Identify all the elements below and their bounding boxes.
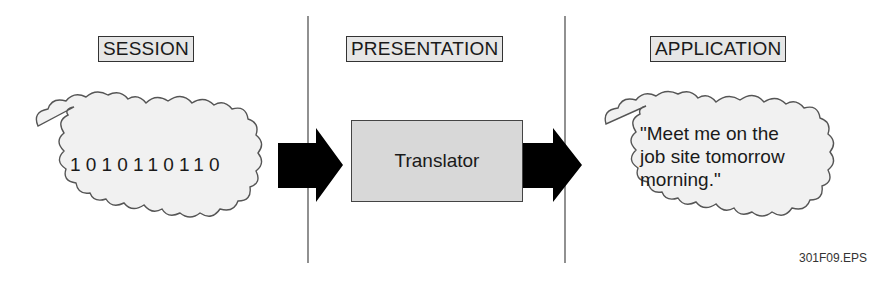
presentation-layer-title: PRESENTATION xyxy=(346,36,503,62)
application-message: "Meet me on the job site tomorrow mornin… xyxy=(640,122,785,191)
session-layer-title: SESSION xyxy=(98,36,194,62)
translator-label: Translator xyxy=(395,150,480,172)
application-layer-title: APPLICATION xyxy=(650,36,786,62)
arrow-session-to-presentation-icon xyxy=(278,128,343,202)
application-message-line-1: "Meet me on the xyxy=(640,122,785,145)
application-message-line-2: job site tomorrow xyxy=(640,145,785,168)
translator-box: Translator xyxy=(351,120,523,202)
osi-layers-diagram: SESSION PRESENTATION APPLICATION 1010110… xyxy=(0,0,895,286)
figure-file-caption: 301F09.EPS xyxy=(799,251,867,265)
arrow-presentation-to-application-icon xyxy=(520,128,582,202)
session-binary-data: 1010110110 xyxy=(70,154,225,176)
application-message-line-3: morning." xyxy=(640,168,785,191)
